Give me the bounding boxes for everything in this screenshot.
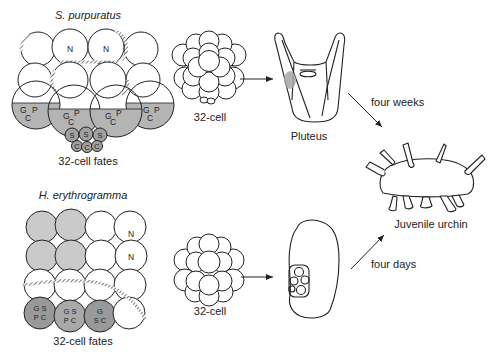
- development-comparison-diagram: S. purpuratus N N: [0, 0, 494, 359]
- svg-text:P C: P C: [34, 313, 47, 322]
- micromeres: S S S C C C: [65, 127, 107, 153]
- svg-text:P C: P C: [64, 316, 77, 325]
- blastomere: [55, 240, 87, 272]
- embryo-32-cell-top: [172, 31, 246, 104]
- svg-text:S C: S C: [94, 316, 107, 325]
- cell-label: N: [128, 229, 134, 239]
- cell-label: N: [103, 44, 109, 54]
- blastomere: [124, 32, 158, 66]
- svg-text:C: C: [94, 142, 100, 151]
- svg-text:C: C: [110, 117, 116, 127]
- svg-text:G: G: [97, 307, 103, 316]
- embryo-caption-top: 32-cell: [194, 111, 226, 123]
- juvenile-urchin: [366, 143, 485, 212]
- svg-text:C: C: [84, 143, 90, 152]
- svg-text:C: C: [147, 113, 153, 123]
- pluteus-larva: [275, 33, 345, 122]
- svg-text:S: S: [69, 131, 74, 140]
- fates-caption-top: 32-cell fates: [58, 155, 118, 167]
- svg-text:C: C: [74, 142, 80, 151]
- blastomere: [55, 209, 87, 241]
- blastomere: [26, 211, 58, 243]
- blastomere: [84, 269, 116, 301]
- svg-text:C: C: [68, 117, 74, 127]
- blastomere: [126, 63, 160, 97]
- svg-text:S: S: [97, 131, 102, 140]
- embryo-caption-bottom: 32-cell: [194, 305, 226, 317]
- blastomere: [114, 269, 146, 301]
- cell-label: N: [128, 252, 134, 262]
- svg-text:G S: G S: [34, 304, 47, 313]
- blastomere: [54, 269, 86, 301]
- blastomere: [85, 240, 117, 272]
- h-erythrogramma-fate-map: H. erythrogramma N N G S P C G S P C G: [24, 189, 147, 347]
- svg-text:S: S: [83, 130, 88, 139]
- svg-text:P: P: [74, 108, 80, 118]
- juvenile-urchin-caption: Juvenile urchin: [394, 218, 467, 230]
- s-purpuratus-fate-map: S. purpuratus N N: [10, 9, 180, 167]
- blastomere: [26, 240, 58, 272]
- svg-text:G S: G S: [64, 307, 77, 316]
- fates-caption-bottom: 32-cell fates: [53, 335, 113, 347]
- pluteus-caption: Pluteus: [291, 130, 328, 142]
- cell-label: N: [67, 44, 73, 54]
- svg-text:C: C: [25, 113, 31, 123]
- svg-text:P: P: [32, 105, 38, 115]
- four-weeks-label: four weeks: [371, 96, 425, 108]
- svg-text:P: P: [116, 108, 122, 118]
- blastomere: [18, 63, 52, 97]
- four-days-label: four days: [371, 258, 417, 270]
- blastomere: [90, 62, 126, 98]
- embryo-32-cell-bottom: [174, 234, 244, 306]
- species-label-s-purpuratus: S. purpuratus: [55, 9, 122, 21]
- svg-text:P: P: [154, 105, 160, 115]
- direct-developing-larva: [289, 220, 339, 318]
- blastomere: [85, 211, 117, 243]
- species-label-h-erythrogramma: H. erythrogramma: [39, 189, 128, 201]
